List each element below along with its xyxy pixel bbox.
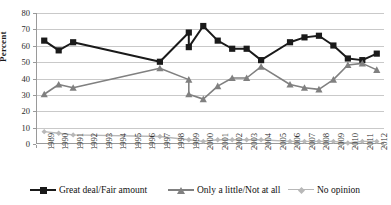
data-point-marker [287, 39, 293, 45]
x-axis-tick-mark [94, 145, 95, 148]
x-axis-tick-mark [123, 145, 124, 148]
x-axis-tick-mark [268, 145, 269, 148]
y-axis-tick-label: 0 [0, 140, 30, 149]
data-point-marker [157, 59, 163, 65]
data-point-marker [185, 91, 192, 98]
data-point-marker [186, 44, 192, 50]
data-point-marker [200, 23, 206, 29]
chart-legend: Great deal/Fair amountOnly a little/Not … [0, 182, 391, 202]
legend-item-3[interactable]: No opinion [288, 182, 360, 198]
legend-item-1[interactable]: Great deal/Fair amount [30, 182, 147, 198]
x-axis-tick-mark [109, 145, 110, 148]
x-axis-tick-mark [65, 145, 66, 148]
x-axis-tick-mark [312, 145, 313, 148]
data-point-marker [286, 81, 293, 88]
x-axis-tick-mark [167, 145, 168, 148]
x-axis-tick-mark [370, 145, 371, 148]
data-point-marker [301, 34, 307, 40]
data-point-marker [56, 47, 62, 53]
series-layer [37, 13, 384, 143]
series-2 [41, 60, 381, 102]
data-point-marker [41, 38, 47, 44]
data-point-marker [258, 63, 265, 70]
y-axis-tick-label: 40 [0, 75, 30, 84]
y-axis-tick-label: 70 [0, 25, 30, 34]
series-line [44, 63, 377, 99]
line-chart: Percent 01020304050607080 19891990199119… [0, 0, 391, 205]
x-axis-tick-mark [196, 145, 197, 148]
x-axis-tick-mark [239, 145, 240, 148]
legend-swatch-icon [30, 185, 56, 195]
x-axis-tick-mark [297, 145, 298, 148]
series-line [44, 26, 377, 62]
x-axis-tick-mark [210, 145, 211, 148]
legend-marker-icon [177, 187, 185, 194]
legend-marker-icon [40, 187, 47, 194]
y-axis-tick-label: 80 [0, 9, 30, 18]
x-axis-tick-mark [254, 145, 255, 148]
x-axis-tick-mark [51, 145, 52, 148]
legend-swatch-icon [288, 185, 314, 195]
x-axis-tick-mark [283, 145, 284, 148]
y-axis-tick-label: 50 [0, 58, 30, 67]
y-axis-tick-label: 20 [0, 107, 30, 116]
data-point-marker [374, 51, 380, 57]
data-point-marker [186, 29, 192, 35]
data-point-marker [70, 39, 76, 45]
y-axis-tick-label: 10 [0, 124, 30, 133]
data-point-marker [156, 65, 163, 72]
x-axis-tick-mark [341, 145, 342, 148]
legend-item-2[interactable]: Only a little/Not at all [168, 182, 280, 198]
x-axis-tick-mark [326, 145, 327, 148]
data-point-marker [229, 46, 235, 52]
x-axis-tick-mark [36, 145, 37, 148]
data-point-marker [214, 83, 221, 90]
x-axis-tick-mark [181, 145, 182, 148]
legend-marker-icon [297, 186, 304, 193]
y-axis-tick-label: 30 [0, 91, 30, 100]
data-point-marker [330, 42, 336, 48]
x-axis-tick-mark [80, 145, 81, 148]
legend-swatch-icon [168, 185, 194, 195]
y-axis-tick-label: 60 [0, 42, 30, 51]
legend-label: No opinion [317, 185, 360, 195]
x-axis-tick-mark [225, 145, 226, 148]
x-axis-tick-mark [355, 145, 356, 148]
series-1 [41, 23, 380, 65]
data-point-marker [258, 57, 264, 63]
data-point-marker [55, 81, 62, 88]
x-axis-tick-mark [138, 145, 139, 148]
legend-label: Great deal/Fair amount [59, 185, 147, 195]
plot-area [36, 13, 384, 144]
data-point-marker [215, 38, 221, 44]
x-axis-tick-mark [384, 145, 385, 148]
data-point-marker [244, 46, 250, 52]
data-point-marker [316, 33, 322, 39]
x-axis-tick-mark [152, 145, 153, 148]
data-point-marker [345, 55, 351, 61]
x-axis: 1989199019911992199319941995199619971998… [36, 145, 384, 185]
legend-label: Only a little/Not at all [197, 185, 280, 195]
